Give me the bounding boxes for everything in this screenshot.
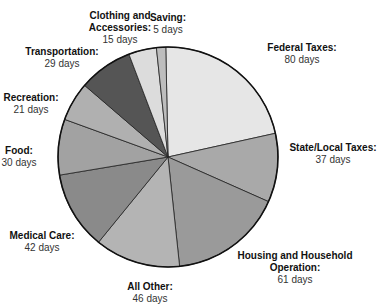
label-state-local-taxes: State/Local Taxes:37 days [287,142,377,166]
label-federal-taxes: Federal Taxes:80 days [262,42,342,66]
label-saving: Saving:5 days [143,12,193,36]
label-all-other: All Other:46 days [110,281,190,305]
label-transportation: Transportation:29 days [22,46,102,70]
label-food: Food:30 days [0,145,38,169]
label-recreation: Recreation:21 days [0,92,62,116]
label-housing: Housing and Household Operation:61 days [225,250,365,286]
label-medical-care: Medical Care:42 days [2,230,82,254]
